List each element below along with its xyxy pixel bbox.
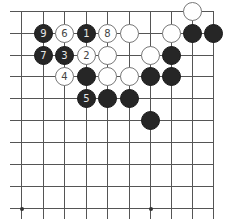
black-stone: [162, 67, 181, 86]
black-stone: [77, 67, 96, 86]
grid-line-horizontal: [10, 142, 214, 143]
white-stone: [120, 67, 139, 86]
go-board: 961873245: [0, 0, 227, 224]
white-stone: [141, 46, 160, 65]
white-stone: [98, 67, 117, 86]
white-stone-move-6: 6: [55, 24, 74, 43]
black-stone: [141, 67, 160, 86]
black-stone-move-3: 3: [55, 46, 74, 65]
grid-line-horizontal: [10, 164, 214, 165]
black-stone: [98, 89, 117, 108]
white-stone: [162, 24, 181, 43]
grid-line-vertical: [21, 11, 22, 219]
grid-line-horizontal: [10, 120, 214, 121]
black-stone: [183, 24, 202, 43]
black-stone: [141, 111, 160, 130]
white-stone: [183, 2, 202, 21]
black-stone: [162, 46, 181, 65]
white-stone: [120, 24, 139, 43]
black-stone-move-1: 1: [77, 24, 96, 43]
star-point: [20, 207, 24, 211]
black-stone: [120, 89, 139, 108]
grid-line-horizontal: [10, 186, 214, 187]
grid-line-horizontal: [10, 208, 214, 209]
black-stone-move-5: 5: [77, 89, 96, 108]
star-point: [149, 207, 153, 211]
black-stone-move-9: 9: [34, 24, 53, 43]
white-stone-move-4: 4: [55, 67, 74, 86]
black-stone-move-7: 7: [34, 46, 53, 65]
white-stone-move-8: 8: [98, 24, 117, 43]
white-stone-move-2: 2: [77, 46, 96, 65]
white-stone: [98, 46, 117, 65]
black-stone: [204, 24, 223, 43]
